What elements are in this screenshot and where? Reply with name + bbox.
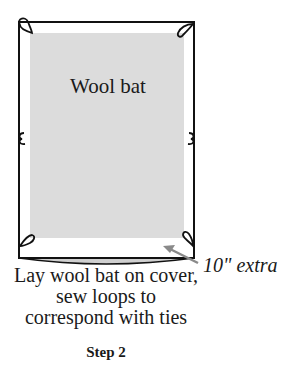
wool-bat-area [30, 33, 184, 238]
instruction-caption: Lay wool bat on cover, sew loops to corr… [0, 265, 212, 328]
caption-line-1: Lay wool bat on cover, [0, 265, 212, 286]
step-label: Step 2 [0, 344, 212, 361]
wool-bat-label: Wool bat [58, 74, 158, 99]
caption-line-3: correspond with ties [0, 307, 212, 328]
extra-length-label: 10" extra [203, 254, 278, 277]
caption-line-2: sew loops to [0, 286, 212, 307]
